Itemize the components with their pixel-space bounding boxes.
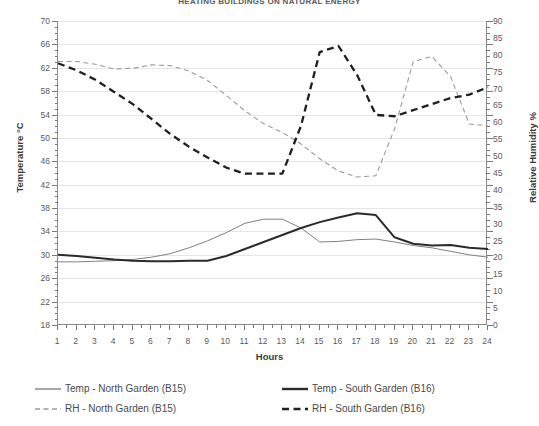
y-tick-right-40: 40: [493, 186, 519, 194]
x-tick-minor: [309, 325, 310, 328]
y-tick-left-66: 66: [24, 40, 50, 48]
axis-minor-tick: [487, 39, 490, 40]
axis-minor-tick: [487, 115, 493, 116]
y-tick-right-90: 90: [493, 17, 519, 25]
y-tick-left-46: 46: [24, 157, 50, 165]
gridline: [58, 68, 486, 69]
x-tick-major: [281, 325, 282, 330]
y-tick-left-34: 34: [24, 227, 50, 235]
y-tick-left-22: 22: [24, 298, 50, 306]
series-line-2: [58, 56, 488, 177]
gridline: [58, 208, 486, 209]
y-tick-right-10: 10: [493, 287, 519, 295]
plot-area: [57, 21, 487, 325]
gridline: [58, 91, 486, 92]
axis-minor-tick: [487, 272, 490, 273]
x-tick-major: [375, 325, 376, 330]
axis-minor-tick: [487, 138, 493, 139]
axis-minor-tick: [487, 307, 490, 308]
x-tick-minor: [197, 325, 198, 328]
axis-minor-tick: [487, 91, 493, 92]
legend-swatch-line-icon: [282, 385, 308, 393]
x-tick-major: [263, 325, 264, 330]
x-tick-minor: [328, 325, 329, 328]
chart-title: HEATING BUILDINGS ON NATURAL ENERGY: [0, 0, 539, 5]
axis-minor-tick: [487, 21, 493, 22]
axis-minor-tick: [487, 290, 490, 291]
axis-minor-tick: [487, 150, 490, 151]
legend-item-temp-south[interactable]: Temp - South Garden (B16): [282, 383, 435, 394]
gridline: [58, 115, 486, 116]
axis-minor-tick: [487, 44, 493, 45]
axis-minor-tick: [487, 243, 490, 244]
y-tick-right-50: 50: [493, 152, 519, 160]
x-tick-major: [169, 325, 170, 330]
series-line-3: [58, 46, 488, 174]
axis-minor-tick: [487, 85, 490, 86]
y-tick-left-30: 30: [24, 251, 50, 259]
x-tick-major: [188, 325, 189, 330]
x-tick-major: [319, 325, 320, 330]
axis-minor-tick: [487, 74, 490, 75]
x-tick-minor: [459, 325, 460, 328]
legend-item-rh-south[interactable]: RH - South Garden (B16): [282, 403, 425, 414]
axis-minor-tick: [487, 191, 490, 192]
y-tick-left-50: 50: [24, 134, 50, 142]
axis-minor-tick: [487, 50, 490, 51]
axis-minor-tick: [487, 255, 493, 256]
x-tick-minor: [104, 325, 105, 328]
legend-swatch-line-icon: [35, 385, 61, 393]
axis-minor-tick: [487, 155, 490, 156]
x-tick-minor: [478, 325, 479, 328]
y-tick-left-38: 38: [24, 204, 50, 212]
axis-minor-tick: [487, 220, 490, 221]
gridline: [58, 161, 486, 162]
axis-minor-tick: [487, 237, 490, 238]
x-tick-minor: [160, 325, 161, 328]
y-axis-title-left: Temperature °C: [14, 98, 25, 218]
y-tick-right-60: 60: [493, 118, 519, 126]
legend-item-rh-north[interactable]: RH - North Garden (B15): [35, 403, 176, 414]
y-axis-right-minor-ticks: [487, 21, 493, 325]
x-tick-major: [356, 325, 357, 330]
y-tick-left-42: 42: [24, 181, 50, 189]
y-tick-right-70: 70: [493, 85, 519, 93]
legend-swatch-dashed-line-icon: [282, 405, 308, 413]
legend-item-temp-north[interactable]: Temp - North Garden (B15): [35, 383, 186, 394]
gridline: [58, 44, 486, 45]
axis-minor-tick: [487, 278, 493, 279]
legend-swatch-dashed-line-icon: [35, 405, 61, 413]
y-tick-right-65: 65: [493, 101, 519, 109]
gridline: [58, 21, 486, 22]
axis-minor-tick: [487, 62, 490, 63]
data-series-layer: [58, 21, 488, 325]
y-tick-right-25: 25: [493, 237, 519, 245]
axis-minor-tick: [487, 103, 490, 104]
y-tick-right-55: 55: [493, 135, 519, 143]
chart-legend: Temp - North Garden (B15) Temp - South G…: [0, 383, 539, 423]
x-axis-title: Hours: [0, 351, 539, 362]
gridline: [58, 255, 486, 256]
axis-minor-tick: [487, 33, 490, 34]
x-tick-major: [300, 325, 301, 330]
axis-minor-tick: [487, 267, 490, 268]
x-tick-major: [487, 325, 488, 330]
axis-minor-tick: [487, 161, 493, 162]
axis-minor-tick: [487, 144, 490, 145]
gridline: [58, 138, 486, 139]
gridline: [58, 302, 486, 303]
x-tick-minor: [384, 325, 385, 328]
chart-container: HEATING BUILDINGS ON NATURAL ENERGY Temp…: [0, 0, 539, 426]
x-tick-minor: [347, 325, 348, 328]
y-tick-left-54: 54: [24, 111, 50, 119]
y-tick-right-20: 20: [493, 253, 519, 261]
y-tick-right-5: 5: [493, 304, 519, 312]
x-tick-major: [468, 325, 469, 330]
axis-minor-tick: [487, 132, 490, 133]
x-tick-major: [337, 325, 338, 330]
x-tick-minor: [291, 325, 292, 328]
axis-minor-tick: [487, 226, 490, 227]
axis-minor-tick: [487, 167, 490, 168]
legend-row-1: Temp - North Garden (B15) Temp - South G…: [0, 383, 539, 403]
x-tick-minor: [85, 325, 86, 328]
